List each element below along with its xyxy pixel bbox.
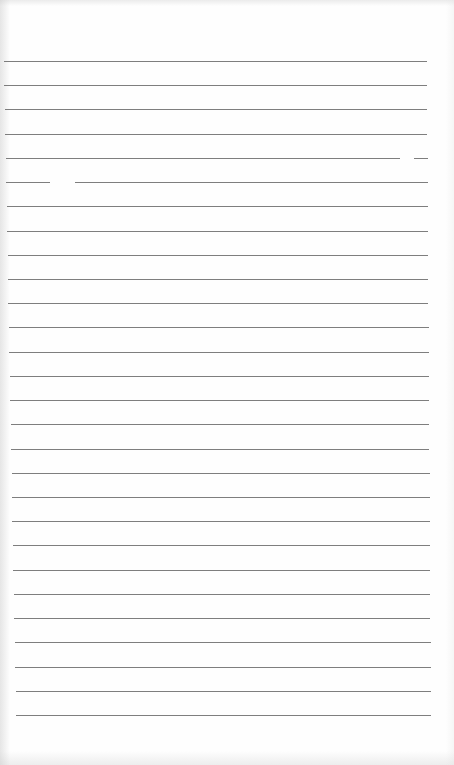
page-bottom-edge-shadow bbox=[0, 751, 454, 765]
ruled-line bbox=[15, 642, 431, 643]
page-right-edge-shadow bbox=[446, 0, 454, 765]
line-print-gap bbox=[400, 156, 414, 159]
ruled-line bbox=[10, 400, 429, 401]
ruled-line bbox=[14, 594, 430, 595]
ruled-line bbox=[13, 570, 430, 571]
ruled-line bbox=[13, 545, 430, 546]
ruled-line bbox=[10, 376, 429, 377]
ruled-line bbox=[7, 206, 428, 207]
line-print-gap bbox=[50, 180, 75, 183]
ruled-line bbox=[12, 473, 430, 474]
ruled-line bbox=[16, 715, 431, 716]
ruled-line bbox=[15, 667, 431, 668]
ruled-line bbox=[5, 134, 427, 135]
page-top-edge-shadow bbox=[0, 0, 454, 6]
page-left-edge-shadow bbox=[0, 0, 10, 765]
ruled-line bbox=[4, 85, 427, 86]
ruled-line bbox=[16, 691, 431, 692]
ruled-line bbox=[12, 521, 430, 522]
ruled-line bbox=[9, 327, 429, 328]
ruled-line bbox=[9, 352, 429, 353]
ruled-line bbox=[7, 231, 428, 232]
ruled-line bbox=[8, 255, 428, 256]
ruled-line bbox=[12, 497, 430, 498]
ruled-line bbox=[8, 279, 428, 280]
ruled-line bbox=[11, 449, 429, 450]
ruled-line bbox=[11, 424, 429, 425]
lined-paper-page bbox=[0, 0, 454, 765]
ruled-line bbox=[14, 618, 430, 619]
ruled-line bbox=[5, 109, 427, 110]
ruled-line bbox=[4, 61, 427, 62]
ruled-line bbox=[6, 158, 428, 159]
ruled-line bbox=[8, 303, 428, 304]
